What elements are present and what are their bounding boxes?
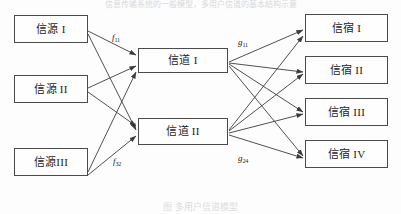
edge-ch1-snk3 bbox=[229, 64, 303, 112]
node-channel-2[interactable]: 信道 II bbox=[138, 118, 228, 145]
edge-src1-ch2 bbox=[88, 34, 136, 130]
edge-label-g24: g24 bbox=[238, 154, 248, 163]
edge-ch1-snk2 bbox=[229, 63, 303, 72]
edge-label-f11: f11 bbox=[112, 33, 120, 42]
node-sink-2-label: 信宿 II bbox=[330, 64, 364, 75]
edge-src3-ch2 bbox=[88, 136, 136, 175]
edge-src3-ch1 bbox=[88, 72, 136, 172]
edge-src2-ch1 bbox=[88, 66, 136, 88]
node-sink-1-label: 信宿 I bbox=[332, 22, 362, 33]
edge-label-g11-sub: 11 bbox=[243, 42, 248, 48]
node-source-1[interactable]: 信源 I bbox=[14, 15, 88, 43]
node-sink-3-label: 信宿 III bbox=[328, 106, 366, 117]
figure-container: 信息传输系统的一般模型，多用户信道的基本结构示意 bbox=[0, 0, 401, 214]
edge-ch2-snk3 bbox=[229, 114, 303, 133]
edge-src2-ch2 bbox=[88, 92, 136, 126]
edge-label-g24-base: g bbox=[238, 153, 243, 163]
edge-ch1-snk4 bbox=[229, 66, 303, 156]
node-sink-2[interactable]: 信宿 II bbox=[305, 56, 388, 84]
node-source-1-label: 信源 I bbox=[36, 23, 66, 34]
edge-label-g11-base: g bbox=[238, 37, 243, 47]
edge-label-g24-sub: 24 bbox=[243, 158, 249, 164]
edges-source-to-channel bbox=[88, 31, 136, 175]
scan-artifact-bottom-caption: 图 多用户信道模型 bbox=[0, 202, 401, 214]
edges-channel-to-sink bbox=[229, 30, 303, 158]
node-source-3[interactable]: 信源III bbox=[14, 148, 88, 176]
edge-label-f32-sub: 32 bbox=[116, 161, 122, 167]
node-source-2-label: 信源 II bbox=[34, 83, 68, 94]
node-source-3-label: 信源III bbox=[34, 156, 69, 167]
node-channel-1[interactable]: 信道 I bbox=[138, 48, 228, 73]
node-channel-1-label: 信道 I bbox=[168, 55, 198, 66]
edge-label-f32: f32 bbox=[113, 157, 121, 166]
edge-label-f11-sub: 11 bbox=[115, 37, 120, 43]
edge-label-g11: g11 bbox=[238, 38, 248, 47]
node-sink-1[interactable]: 信宿 I bbox=[305, 14, 388, 42]
node-sink-4[interactable]: 信宿 IV bbox=[305, 140, 388, 168]
node-sink-4-label: 信宿 IV bbox=[328, 148, 366, 159]
node-sink-3[interactable]: 信宿 III bbox=[305, 98, 388, 126]
node-channel-2-label: 信道 II bbox=[166, 126, 200, 137]
node-source-2[interactable]: 信源 II bbox=[14, 75, 88, 103]
